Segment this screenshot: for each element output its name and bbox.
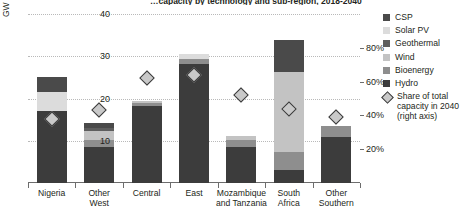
square-swatch-icon <box>383 54 390 61</box>
y2-axis-tick-label: 20% <box>366 144 396 154</box>
y2-axis-tick-label: 80% <box>366 43 396 53</box>
y2-axis-tick <box>360 115 364 116</box>
share-diamond-marker <box>139 70 155 86</box>
bar-segment-csp <box>274 40 304 72</box>
legend-item-wind[interactable]: Wind <box>383 52 473 62</box>
bar-segment-bioenergy <box>226 140 256 147</box>
bar-mozambique-and-tanzania[interactable] <box>226 136 256 183</box>
bar-segment-bioenergy <box>274 152 304 170</box>
bar-segment-hydro <box>274 170 304 183</box>
bar-segment-hydro <box>321 137 351 183</box>
bar-segment-csp <box>37 77 67 91</box>
legend-item-share-marker[interactable]: Share of totalcapacity in 2040(right axi… <box>383 91 473 121</box>
x-axis-label-other-southern: OtherSouthern <box>306 188 367 208</box>
legend-item-label: Solar PV <box>395 25 429 35</box>
bar-segment-bioenergy <box>321 126 351 137</box>
legend-marker-label-line: Share of total <box>397 91 459 101</box>
bar-central[interactable] <box>132 101 162 183</box>
legend-item-label: Hydro <box>395 78 418 88</box>
y2-axis-tick <box>360 48 364 49</box>
legend-marker-label-line: (right axis) <box>397 111 459 121</box>
y-axis-title: GW <box>1 2 11 17</box>
share-diamond-marker <box>329 109 345 125</box>
legend-item-label: CSP <box>395 12 413 22</box>
share-diamond-marker <box>234 87 250 103</box>
plot-area <box>28 14 360 183</box>
x-axis-tick <box>360 183 361 188</box>
legend-marker-label: Share of totalcapacity in 2040(right axi… <box>397 91 459 121</box>
legend-item-label: Wind <box>395 52 415 62</box>
chart-legend: CSPSolar PVGeothermalWindBioenergyHydroS… <box>383 12 473 124</box>
share-diamond-marker <box>91 103 107 119</box>
square-swatch-icon <box>383 67 390 74</box>
y2-axis-tick-label: 60% <box>366 77 396 87</box>
bar-nigeria[interactable] <box>37 77 67 183</box>
legend-marker-label-line: capacity in 2040 <box>397 101 459 111</box>
chart-title: …capacity by technology and sub-region, … <box>150 0 390 5</box>
bar-other-west[interactable] <box>84 123 114 183</box>
x-axis-label-line: Southern <box>306 198 367 208</box>
legend-item-csp[interactable]: CSP <box>383 12 473 22</box>
legend-item-solar-pv[interactable]: Solar PV <box>383 25 473 35</box>
legend-item-label: Geothermal <box>395 38 440 48</box>
chart-container: …capacity by technology and sub-region, … <box>0 0 473 220</box>
legend-item-label: Bioenergy <box>395 65 434 75</box>
square-swatch-icon <box>383 14 390 21</box>
y2-axis-tick-label: 40% <box>366 110 396 120</box>
x-axis-label-line: Other <box>306 188 367 198</box>
legend-item-bioenergy[interactable]: Bioenergy <box>383 65 473 75</box>
y-axis-tick-label: 20 <box>86 94 110 104</box>
bar-segment-hydro <box>226 147 256 183</box>
y-axis-tick-label: 10 <box>86 136 110 146</box>
square-swatch-icon <box>383 27 390 34</box>
legend-item-geothermal[interactable]: Geothermal <box>383 38 473 48</box>
bar-segment-hydro <box>132 106 162 183</box>
bar-segment-solar-pv <box>37 92 67 111</box>
y2-axis-tick <box>360 82 364 83</box>
y-axis-tick-label: 30 <box>86 51 110 61</box>
legend-item-hydro[interactable]: Hydro <box>383 78 473 88</box>
y2-axis-tick <box>360 149 364 150</box>
bar-other-southern[interactable] <box>321 126 351 183</box>
x-axis-label-line: West <box>68 198 129 208</box>
bar-segment-hydro <box>84 147 114 183</box>
gridline <box>28 14 360 15</box>
y-axis-tick-label: 40 <box>86 9 110 19</box>
diamond-marker-icon <box>381 91 394 104</box>
